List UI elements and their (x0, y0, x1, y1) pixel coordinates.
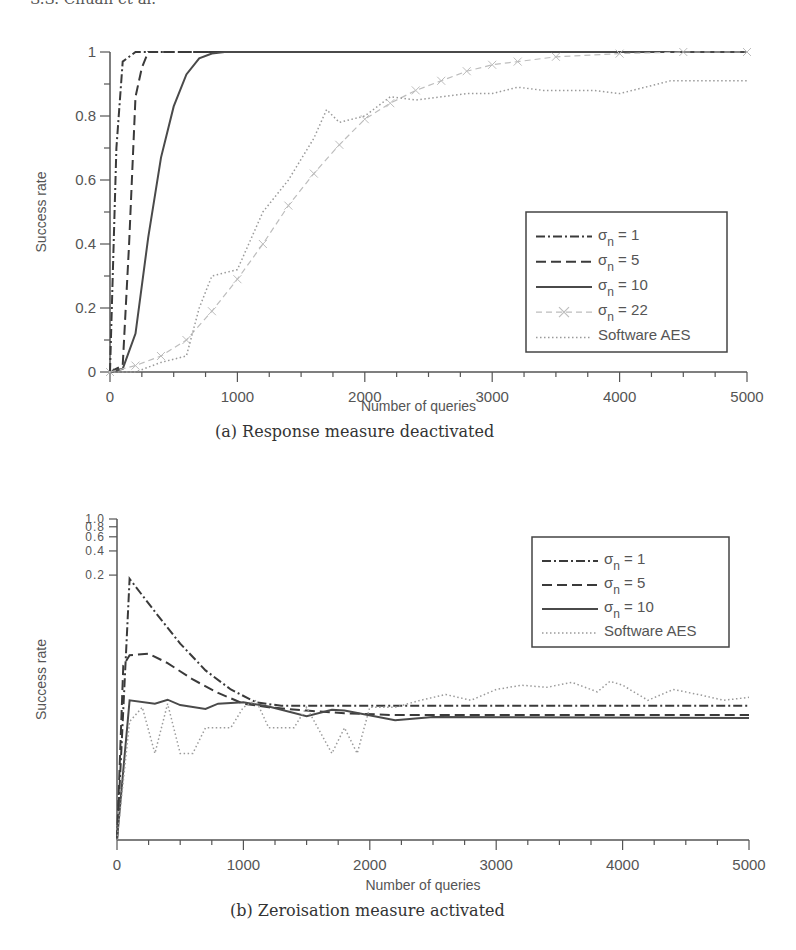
cross-marker-icon (284, 202, 292, 210)
cross-marker-icon (233, 275, 241, 283)
figure: 01000200030004000500000.20.40.60.81Numbe… (0, 0, 796, 950)
x-tick-label: 3000 (480, 856, 513, 873)
caption-b: (b) Zeroisation measure activated (230, 901, 505, 920)
cross-marker-icon (361, 115, 369, 123)
y-axis-label: Success rate (33, 171, 49, 252)
cross-marker-icon (463, 67, 471, 75)
x-tick-label: 3000 (476, 388, 509, 405)
y-tick-label: 0.6 (75, 171, 96, 188)
x-tick-label: 5000 (730, 388, 763, 405)
legend: σn = 1σn = 5σn = 10σn = 22Software AES (526, 212, 727, 352)
x-tick-label: 0 (106, 388, 114, 405)
x-axis-label: Number of queries (361, 398, 476, 414)
cross-marker-icon (208, 307, 216, 315)
cross-marker-icon (157, 352, 165, 360)
y-tick-label: 0 (88, 363, 96, 380)
cross-marker-icon (335, 141, 343, 149)
y-axis-label: Success rate (33, 639, 49, 720)
legend: σn = 1σn = 5σn = 10Software AES (532, 537, 729, 647)
y-tick-label: 0.2 (75, 299, 96, 316)
y-tick-label: 0.2 (85, 568, 105, 582)
x-tick-label: 0 (113, 856, 121, 873)
x-axis-label: Number of queries (365, 877, 480, 893)
cross-marker-icon (386, 99, 394, 107)
x-tick-label: 2000 (353, 856, 386, 873)
caption-a: (a) Response measure deactivated (215, 422, 494, 441)
legend-entry-label: Software AES (598, 326, 691, 343)
x-tick-label: 4000 (603, 388, 636, 405)
legend-entry-label: Software AES (604, 622, 697, 639)
x-tick-label: 1000 (221, 388, 254, 405)
chart-b: 0100020003000400050000.20.40.60.81.0Numb… (33, 512, 766, 893)
y-tick-label: 1 (88, 43, 96, 60)
y-tick-label: 0.4 (85, 544, 105, 558)
series-line (117, 654, 749, 840)
cross-marker-icon (131, 362, 139, 370)
series-line (117, 700, 749, 840)
y-tick-label: 0.4 (75, 235, 96, 252)
y-tick-label: 0.8 (75, 107, 96, 124)
cross-marker-icon (259, 240, 267, 248)
cross-marker-icon (437, 77, 445, 85)
x-tick-label: 5000 (732, 856, 765, 873)
y-tick-label: 1.0 (85, 512, 105, 526)
x-tick-label: 4000 (606, 856, 639, 873)
x-tick-label: 1000 (227, 856, 260, 873)
chart-a: 01000200030004000500000.20.40.60.81Numbe… (33, 43, 764, 414)
cross-marker-icon (412, 86, 420, 94)
cross-marker-icon (310, 170, 318, 178)
